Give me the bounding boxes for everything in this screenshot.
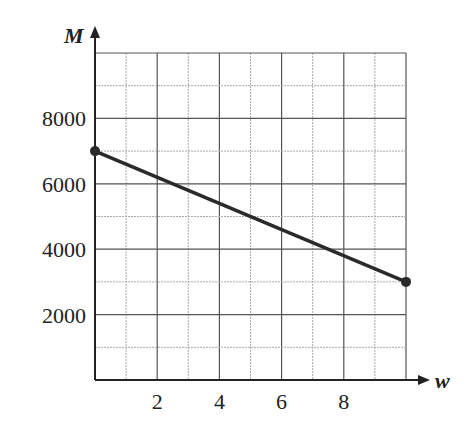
x-tick-label: 8 <box>338 389 349 414</box>
x-axis-label: w <box>435 368 450 393</box>
y-axis-label: M <box>63 23 85 48</box>
x-tick-label: 2 <box>152 389 163 414</box>
x-tick-label: 4 <box>214 389 225 414</box>
axes: M w <box>63 23 450 393</box>
y-tick-label: 2000 <box>42 303 86 328</box>
tick-labels: 24682000400060008000 <box>42 106 349 414</box>
endpoint-dot <box>90 146 100 156</box>
endpoint-dot <box>401 277 411 287</box>
y-tick-label: 8000 <box>42 106 86 131</box>
y-tick-label: 6000 <box>42 172 86 197</box>
line-chart: M w 24682000400060008000 <box>0 0 472 435</box>
y-tick-label: 4000 <box>42 237 86 262</box>
x-axis-arrow-icon <box>418 375 430 385</box>
x-tick-label: 6 <box>276 389 287 414</box>
y-axis-arrow-icon <box>90 26 100 38</box>
